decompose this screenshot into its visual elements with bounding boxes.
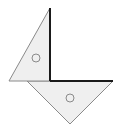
- upper-triangle: [9, 8, 50, 81]
- geometry-diagram: [0, 0, 119, 126]
